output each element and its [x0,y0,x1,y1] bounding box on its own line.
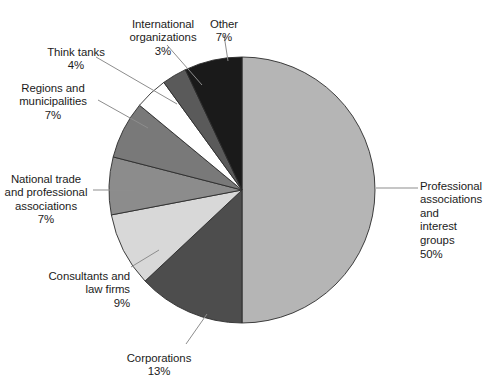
pie-label-other: Other 7% [192,4,256,58]
pie-label-pct-professional-associations: 50% [420,248,492,262]
pie-label-text-think-tanks: Think tanks [47,46,105,58]
pie-label-text-international-orgs: International organizations [129,18,196,44]
pie-label-professional-associations: Professional associations and interest g… [420,166,492,275]
pie-label-text-national-trade: National trade and professional associat… [5,173,88,212]
pie-label-pct-regions: 7% [7,109,99,123]
pie-label-consultants: Consultants and law firms 9% [16,256,130,324]
pie-chart-figure: Professional associations and interest g… [0,0,494,379]
pie-label-think-tanks: Think tanks 4% [36,32,116,86]
pie-label-national-trade: National trade and professional associat… [0,159,92,241]
pie-slices-group [109,57,375,323]
pie-slice-professional-associations [242,57,375,323]
pie-label-text-corporations: Corporations [127,352,192,364]
pie-label-text-professional-associations: Professional associations and interest g… [420,180,482,246]
pie-label-text-consultants: Consultants and law firms [48,270,130,296]
pie-label-pct-other: 7% [192,31,256,45]
pie-label-corporations: Corporations 13% [112,338,206,379]
pie-label-pct-national-trade: 7% [0,213,92,227]
pie-label-pct-corporations: 13% [112,365,206,379]
pie-label-pct-think-tanks: 4% [36,59,116,73]
pie-label-text-other: Other [210,18,238,30]
pie-label-pct-consultants: 9% [16,297,130,311]
